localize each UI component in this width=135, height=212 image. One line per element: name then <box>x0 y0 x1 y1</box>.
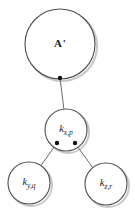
diagram-canvas: A' kx,p ky,q kz,r <box>0 0 135 212</box>
node-kxp-label-subscript: x,p <box>63 128 73 137</box>
connection-dot-kxp-left[interactable] <box>55 141 59 145</box>
node-root-label: A' <box>54 37 66 49</box>
node-root-label-main: A <box>54 37 62 49</box>
node-kyq-label-subscript: y,q <box>26 181 36 190</box>
node-root-label-prime: ' <box>63 37 66 49</box>
node-kzr-label-subscript: z,r <box>103 182 112 191</box>
edge-root-to-kxp <box>60 78 64 110</box>
connection-dot-kxp-right[interactable] <box>73 141 77 145</box>
tree-diagram: A' kx,p ky,q kz,r <box>0 0 135 212</box>
connection-dot-root-bottom[interactable] <box>58 76 62 80</box>
